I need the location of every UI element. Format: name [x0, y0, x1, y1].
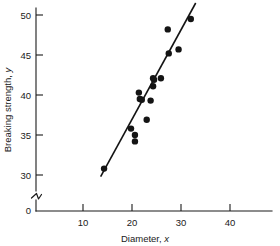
x-tick-label-10: 10 — [78, 217, 89, 228]
y-axis-title-var: y — [2, 67, 13, 74]
x-tick-marks — [83, 204, 230, 211]
y-tick-label-45: 45 — [20, 50, 31, 61]
scatter-plot: 50 45 40 35 30 0 10 20 30 40 Diameter, x… — [0, 0, 280, 246]
data-point — [128, 125, 134, 131]
data-point — [147, 97, 153, 103]
y-axis-title-text: Breaking strength, — [2, 75, 13, 152]
data-point — [132, 138, 138, 144]
data-point — [188, 16, 194, 22]
data-point — [165, 26, 171, 32]
x-tick-label-20: 20 — [127, 217, 138, 228]
y-tick-label-40: 40 — [20, 90, 31, 101]
data-point — [136, 89, 142, 95]
data-point — [166, 50, 172, 56]
y-axis-title: Breaking strength, y — [2, 67, 13, 153]
y-tick-marks — [36, 15, 43, 175]
chart-page: 50 45 40 35 30 0 10 20 30 40 Diameter, x… — [0, 0, 280, 246]
x-tick-label-30: 30 — [176, 217, 187, 228]
y-axis-break-icon — [32, 194, 42, 200]
data-point — [150, 83, 156, 89]
trend-line — [101, 3, 196, 177]
y-tick-label-50: 50 — [20, 10, 31, 21]
data-point — [158, 75, 164, 81]
x-axis-title: Diameter, x — [121, 233, 170, 244]
data-point — [144, 117, 150, 123]
data-point — [151, 77, 157, 83]
y-tick-label-35: 35 — [20, 130, 31, 141]
x-axis-title-var: x — [163, 233, 170, 244]
data-points-group — [101, 16, 194, 172]
y-tick-label-30: 30 — [20, 170, 31, 181]
data-point — [101, 165, 107, 171]
x-axis-title-text: Diameter, — [121, 233, 162, 244]
data-point — [132, 132, 138, 138]
data-point — [139, 97, 145, 103]
data-point — [175, 46, 181, 52]
x-tick-label-40: 40 — [225, 217, 236, 228]
y-origin-label: 0 — [26, 205, 31, 216]
